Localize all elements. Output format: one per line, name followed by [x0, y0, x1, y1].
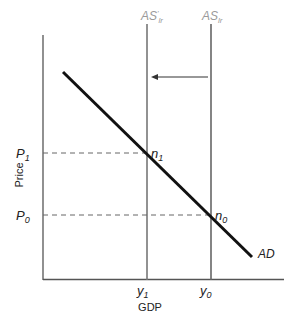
as-ad-diagram: AS'lr ASlr P1 P0 n1 n0 AD y1 y0 GDP Pric…: [0, 0, 287, 315]
p0-label: P0: [16, 208, 30, 225]
n1-label: n1: [151, 146, 163, 163]
x-axis-title: GDP: [138, 301, 162, 313]
n0-label: n0: [215, 208, 227, 225]
p1-label: P1: [16, 146, 30, 163]
ad-label: AD: [257, 247, 275, 261]
y0-label: y0: [199, 283, 212, 300]
as-lr-old-label: ASlr: [201, 9, 223, 25]
y1-label: y1: [136, 283, 149, 300]
as-lr-new-label: AS'lr: [140, 9, 163, 25]
leftward-shift-arrow-icon: [151, 74, 208, 80]
y-axis-title: Price: [13, 162, 25, 187]
ad-curve: [63, 72, 252, 257]
